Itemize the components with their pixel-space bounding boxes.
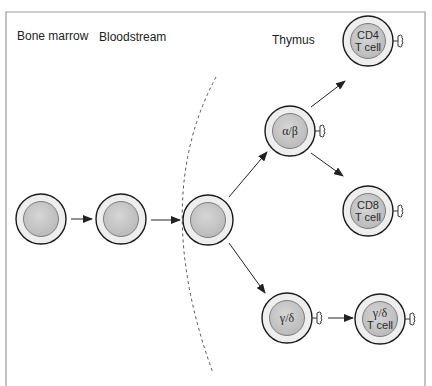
label-cd8-tcell: T cell [355, 211, 381, 223]
cell-alpha-beta-thymocyte: α/β [265, 106, 325, 156]
tcr-receptor-icon [405, 313, 415, 325]
label-gamma-delta: γ/δ [279, 311, 295, 325]
arrow-to-alpha-beta [229, 152, 267, 197]
cell-bone-marrow-precursor [16, 194, 66, 244]
arrow-to-cd4 [311, 81, 345, 107]
label-gamma-delta-t: γ/δ [372, 306, 388, 320]
t-cell-development-diagram: Bone marrow Bloodstream Thymus α/β CD4 T… [0, 0, 432, 386]
cell-bloodstream-precursor [96, 194, 146, 244]
label-alpha-beta: α/β [282, 124, 298, 138]
label-bone-marrow: Bone marrow [17, 29, 89, 43]
tcr-receptor-icon [315, 125, 325, 137]
cell-gamma-delta-thymocyte: γ/δ [262, 293, 322, 343]
tcr-receptor-icon [393, 205, 403, 217]
label-cd4-tcell: T cell [355, 41, 381, 53]
cell-cd8-t-cell: CD8 T cell [343, 186, 403, 236]
label-cd8: CD8 [357, 199, 379, 211]
cell-gamma-delta-t-cell: γ/δ T cell [355, 294, 415, 344]
label-cd4: CD4 [357, 29, 379, 41]
tcr-receptor-icon [393, 35, 403, 47]
label-thymus: Thymus [272, 33, 315, 47]
arrow-to-gamma-delta [229, 243, 265, 293]
tcr-receptor-icon [312, 312, 322, 324]
label-bloodstream: Bloodstream [99, 30, 166, 44]
cell-cd4-t-cell: CD4 T cell [343, 16, 403, 66]
arrow-to-cd8 [311, 153, 343, 176]
cell-thymocyte-precursor [183, 195, 233, 245]
label-gamma-delta-tcell: T cell [367, 319, 393, 331]
